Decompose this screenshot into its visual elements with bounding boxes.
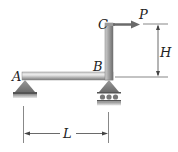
label-point-a: A [11, 69, 21, 84]
roller-support-b [97, 80, 121, 106]
load-arrow-p [113, 21, 140, 29]
frame-diagram: A B C P H L [0, 0, 178, 152]
label-point-c: C [98, 17, 108, 32]
label-dimension-h: H [159, 45, 172, 60]
label-dimension-l: L [62, 126, 72, 141]
label-load-p: P [138, 7, 148, 22]
label-point-b: B [92, 59, 103, 74]
